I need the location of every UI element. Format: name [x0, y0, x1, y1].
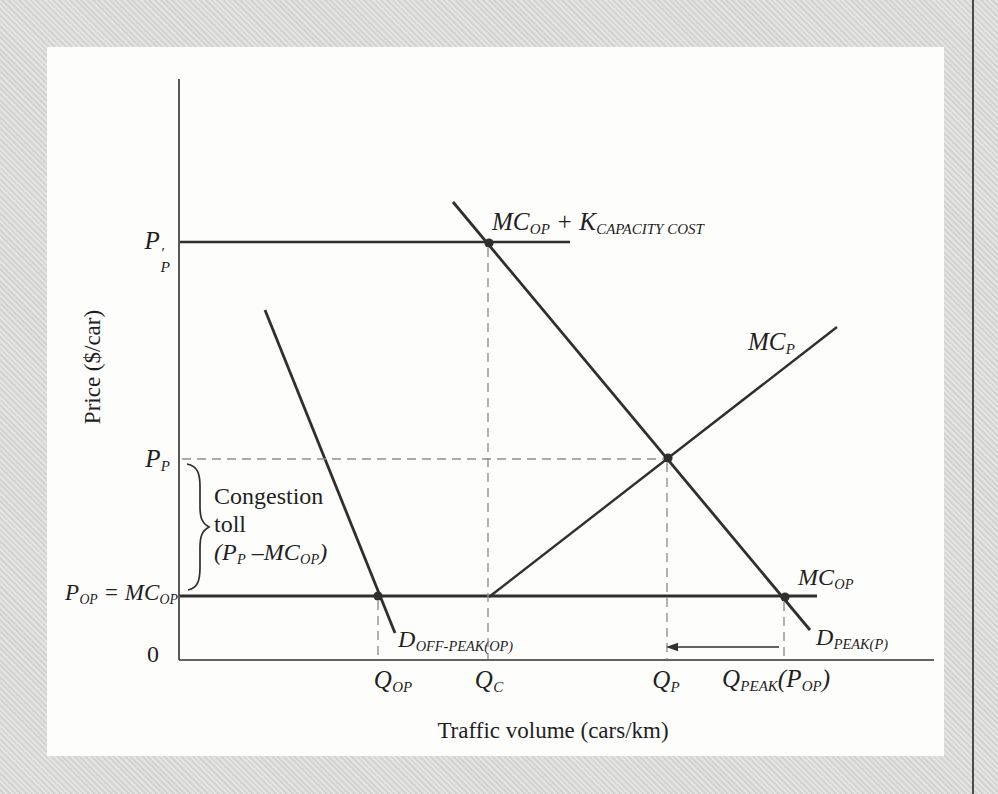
congestion-toll-annotation: Congestion toll (PP –MCOP) — [214, 482, 327, 569]
curve-label-mcop-plus-k: MCOP + KCAPACITY COST — [492, 208, 704, 236]
congestion-toll-line2: toll — [214, 510, 327, 538]
d-off-peak-curve — [265, 310, 395, 633]
page-edge-line — [972, 0, 974, 794]
scanned-textbook-figure: { "figure": { "background_color": "#dada… — [0, 0, 998, 794]
curve-label-d-offpeak: DOFF-PEAK(OP) — [398, 626, 513, 653]
price-label-pop-equals-mcop: POP = MCOP — [48, 580, 178, 606]
mc-p-curve — [489, 327, 837, 597]
congestion-toll-brace — [187, 464, 209, 590]
origin-label: 0 — [140, 641, 166, 668]
congestion-toll-line1: Congestion — [214, 482, 327, 510]
intersection-dot-qop — [373, 591, 382, 600]
d-peak-curve — [453, 202, 810, 630]
quantity-label-qop: QOP — [374, 666, 412, 694]
quantity-label-qp: QP — [652, 666, 680, 694]
demand-shift-arrowhead — [666, 643, 678, 652]
price-label-pp-prime: P′P — [134, 227, 170, 275]
curve-label-mcp: MCP — [748, 328, 795, 356]
y-axis-title: Price ($/car) — [80, 310, 106, 424]
x-axis-title: Traffic volume (cars/km) — [437, 718, 668, 744]
price-label-pp: PP — [134, 445, 170, 473]
quantity-label-qc: QC — [475, 666, 503, 694]
intersection-dot-qpeak — [780, 592, 789, 601]
curve-label-d-peak: DPEAK(P) — [816, 624, 888, 651]
intersection-dot-qp — [663, 453, 672, 462]
curve-label-mcop: MCOP — [798, 564, 853, 591]
congestion-toll-formula: (PP –MCOP) — [214, 538, 327, 569]
quantity-label-qpeak: QPEAK(POP) — [722, 665, 830, 693]
intersection-dot-qc — [484, 238, 493, 247]
